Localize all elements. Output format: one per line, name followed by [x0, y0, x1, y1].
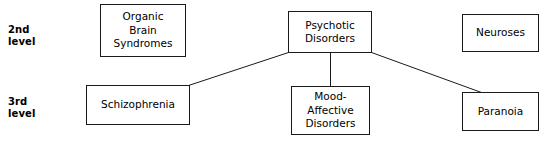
edge-psychotic-to-paranoia: [372, 53, 482, 93]
node-mood-affective-disorders[interactable]: Mood- Affective Disorders: [291, 86, 370, 135]
edge-psychotic-to-schizophrenia: [189, 53, 289, 86]
node-psychotic-disorders[interactable]: Psychotic Disorders: [288, 11, 372, 53]
node-organic-brain-syndromes[interactable]: Organic Brain Syndromes: [100, 4, 186, 57]
node-paranoia[interactable]: Paranoia: [462, 92, 539, 131]
node-neuroses[interactable]: Neuroses: [462, 14, 539, 52]
hierarchy-diagram: 2nd level 3rd level Organic Brain Syndro…: [0, 0, 547, 141]
node-schizophrenia[interactable]: Schizophrenia: [86, 85, 190, 125]
